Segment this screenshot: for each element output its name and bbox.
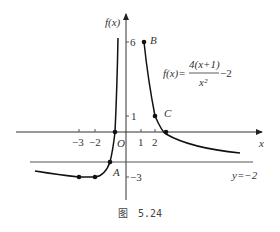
- y-axis-label: f(x): [105, 16, 121, 29]
- y-tick-neg3: −3: [130, 171, 142, 183]
- y-tick-6: 6: [130, 36, 136, 48]
- asymptote-label: y=−2: [231, 169, 258, 181]
- point-label-a: A: [112, 166, 120, 178]
- x-tick-neg3: −3: [72, 136, 84, 148]
- x-tick-neg2: −2: [89, 136, 101, 148]
- curve-left-branch: [35, 38, 118, 177]
- x-tick-1: 1: [138, 136, 144, 148]
- figure-caption: 图 5.24: [118, 208, 162, 219]
- x-axis-label: x: [258, 137, 264, 149]
- point-label-b: B: [150, 34, 157, 46]
- y-tick-1: 1: [131, 110, 137, 122]
- formula-prefix: f(x)=: [163, 67, 186, 80]
- formula-denominator: x²: [198, 76, 208, 88]
- origin-label: O: [117, 137, 125, 149]
- x-tick-2: 2: [152, 136, 158, 148]
- point-label-c: C: [164, 107, 172, 119]
- function-graph: f(x) x O 6 1 −3 −3 −2 1 2 B C A y=−2 f(x…: [0, 0, 280, 232]
- formula-suffix: −2: [220, 67, 232, 79]
- formula-numerator: 4(x+1): [189, 58, 220, 71]
